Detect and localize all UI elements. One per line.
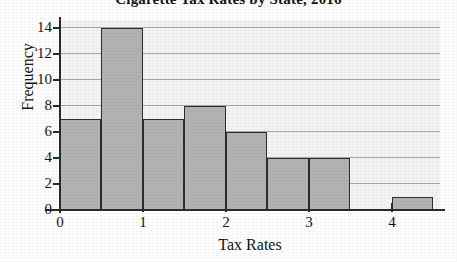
x-tick-label: 1	[131, 214, 155, 230]
histogram-bar	[226, 132, 267, 210]
histogram-figure: Cigarette Tax Rates by State, 2016 02468…	[0, 0, 457, 262]
histogram-bar	[184, 106, 225, 210]
y-tick-mark	[53, 183, 61, 185]
histogram-bar	[309, 158, 350, 210]
histogram-bar	[267, 158, 308, 210]
histogram-bar	[101, 28, 142, 210]
x-tick-mark	[225, 203, 227, 212]
y-tick-mark	[53, 131, 61, 133]
x-axis-title: Tax Rates	[60, 236, 440, 254]
y-tick-mark	[53, 53, 61, 55]
y-axis-title: Frequency	[19, 2, 37, 152]
x-tick-mark	[142, 203, 144, 212]
histogram-bar	[143, 119, 184, 210]
x-tick-mark	[308, 203, 310, 212]
x-tick-label: 3	[297, 214, 321, 230]
y-tick-label: 0	[8, 202, 52, 217]
histogram-bar	[60, 119, 101, 210]
y-tick-mark	[53, 27, 61, 29]
x-tick-label: 0	[48, 214, 72, 230]
x-axis-line	[45, 209, 445, 211]
y-tick-mark	[53, 157, 61, 159]
y-tick-label: 2	[8, 176, 52, 191]
y-tick-mark	[53, 105, 61, 107]
x-tick-mark	[59, 203, 61, 212]
x-tick-label: 2	[214, 214, 238, 230]
y-tick-mark	[53, 79, 61, 81]
x-tick-label: 4	[380, 214, 404, 230]
y-tick-label: 4	[8, 150, 52, 165]
plot-area	[60, 20, 440, 210]
chart-title: Cigarette Tax Rates by State, 2016	[0, 0, 457, 8]
x-tick-mark	[391, 203, 393, 212]
